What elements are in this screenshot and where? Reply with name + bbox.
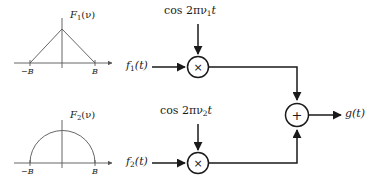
output-label: g(t) <box>345 108 365 119</box>
branch-1-input-label: f1(t) <box>126 60 148 73</box>
branch-1-input-tail: (t) <box>135 59 148 72</box>
branch-2-carrier-tail: t <box>208 104 212 117</box>
output-label-g: g <box>345 107 352 120</box>
spectrum-1-tick-label-right: B <box>92 68 98 76</box>
spectrum-2-semicircle-trace <box>30 131 95 164</box>
spectrum-2-title-F: F <box>70 109 77 120</box>
branch-1-carrier-head: cos 2πν <box>164 4 207 17</box>
branch-2-output-wire <box>209 130 298 163</box>
branch-2-carrier-label: cos 2πν2t <box>160 105 212 118</box>
branch-2-multiplier-icon: × <box>192 158 204 169</box>
fdm-block-diagram-figure: F1(ν) −B B F2(ν) −B B cos 2πν1t f1(t) × … <box>0 0 378 192</box>
summer-plus-icon: + <box>291 109 303 122</box>
spectrum-plot-2 <box>14 120 112 168</box>
spectrum-2-tick-label-left: −B <box>21 168 34 176</box>
spectrum-2-tick-label-right: B <box>92 168 98 176</box>
spectrum-1-title-F: F <box>70 9 77 20</box>
spectrum-1-triangle-trace <box>30 29 95 63</box>
output-label-tail: (t) <box>352 107 365 120</box>
diagram-canvas <box>0 0 378 192</box>
branch-2-input-tail: (t) <box>135 155 148 168</box>
branch-1-carrier-tail: t <box>212 4 216 17</box>
spectrum-1-tick-label-left: −B <box>21 68 34 76</box>
spectrum-2-title-tail: (ν) <box>81 109 95 120</box>
spectrum-plot-1 <box>14 18 112 68</box>
spectrum-2-title: F2(ν) <box>70 110 95 122</box>
branch-2-input-label: f2(t) <box>126 156 148 169</box>
spectrum-1-title: F1(ν) <box>70 10 95 22</box>
spectrum-1-title-tail: (ν) <box>81 9 95 20</box>
branch-1-carrier-label: cos 2πν1t <box>164 5 216 18</box>
branch-1-multiplier-icon: × <box>192 62 204 73</box>
branch-1-output-wire <box>209 67 298 100</box>
branch-2-carrier-head: cos 2πν <box>160 104 203 117</box>
